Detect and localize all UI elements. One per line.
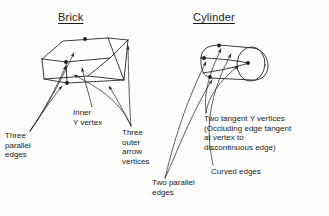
- label-three-outer-arrow-vertices: Threeouterarrowvertices: [122, 128, 150, 166]
- cylinder-vertex-dots: [202, 44, 250, 79]
- panel-title-brick: Brick: [58, 11, 83, 23]
- label-two-parallel-edges: Two paralleledges: [152, 178, 195, 197]
- label-curved-edges: Curved edges: [211, 167, 261, 177]
- line-drawing-junction-figure: Brick Cylinder Threeparalleledges InnerY…: [0, 0, 329, 216]
- label-inner-y-vertex: InnerY vertex: [73, 108, 102, 127]
- brick-wireframe-icon: [42, 38, 128, 83]
- panel-title-cylinder: Cylinder: [193, 11, 235, 23]
- label-three-parallel-edges: Threeparalleledges: [5, 131, 31, 160]
- label-two-tangent-y-vertices: Two tangent Y vertices(Occluding edge ta…: [204, 114, 291, 152]
